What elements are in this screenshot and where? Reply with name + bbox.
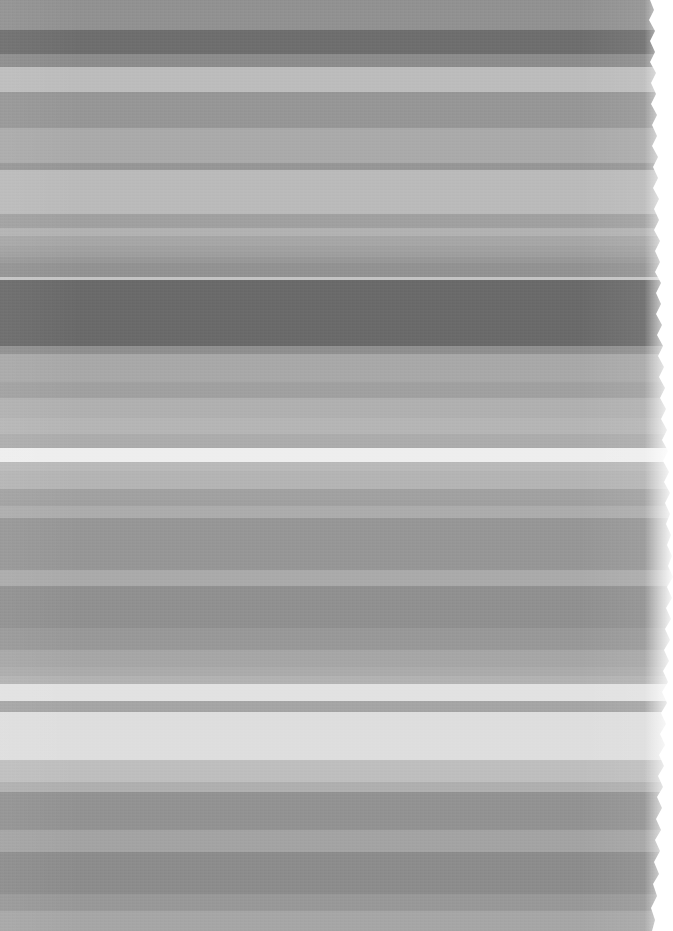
band-field bbox=[0, 0, 673, 931]
band-b05 bbox=[0, 92, 673, 128]
band-b03 bbox=[0, 54, 673, 67]
band-b06 bbox=[0, 128, 673, 163]
band-b11 bbox=[0, 236, 673, 246]
band-b37 bbox=[0, 684, 673, 701]
band-b24 bbox=[0, 448, 673, 462]
band-b08 bbox=[0, 170, 673, 214]
band-b34 bbox=[0, 650, 673, 667]
band-b17 bbox=[0, 280, 673, 346]
band-b23 bbox=[0, 434, 673, 448]
band-b22 bbox=[0, 418, 673, 434]
band-b45 bbox=[0, 894, 673, 911]
band-b29 bbox=[0, 506, 673, 518]
band-b27 bbox=[0, 489, 673, 500]
band-b09 bbox=[0, 214, 673, 228]
band-b07 bbox=[0, 163, 673, 170]
image-canvas bbox=[0, 0, 673, 931]
band-b20 bbox=[0, 382, 673, 398]
band-b42 bbox=[0, 792, 673, 830]
band-b25 bbox=[0, 462, 673, 471]
band-b38 bbox=[0, 701, 673, 712]
band-b19 bbox=[0, 354, 673, 382]
band-b26 bbox=[0, 471, 673, 489]
band-b15 bbox=[0, 263, 673, 277]
band-b21 bbox=[0, 398, 673, 418]
band-b41 bbox=[0, 782, 673, 792]
band-b46 bbox=[0, 911, 673, 931]
band-b35 bbox=[0, 667, 673, 676]
band-b36 bbox=[0, 676, 673, 684]
band-b33 bbox=[0, 628, 673, 650]
band-b44 bbox=[0, 852, 673, 894]
band-b04 bbox=[0, 67, 673, 92]
band-b39 bbox=[0, 712, 673, 760]
band-b18 bbox=[0, 346, 673, 354]
band-b30 bbox=[0, 518, 673, 570]
band-b32 bbox=[0, 586, 673, 628]
band-b40 bbox=[0, 760, 673, 782]
band-b02 bbox=[0, 30, 673, 54]
band-b31 bbox=[0, 570, 673, 586]
band-b10 bbox=[0, 228, 673, 236]
band-b43 bbox=[0, 830, 673, 852]
band-b01 bbox=[0, 0, 673, 30]
